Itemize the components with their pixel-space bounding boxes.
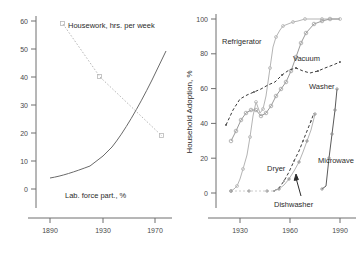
right-chart-svg: Household Adoption, % 100 80 60 40 20 0 bbox=[182, 0, 364, 255]
annotation-labor-force: Lab. force part., % bbox=[65, 191, 127, 200]
left-y-ticklabel: 60 bbox=[20, 18, 28, 25]
left-y-ticklabel: 20 bbox=[20, 130, 28, 137]
right-y-ticklabels: 100 80 60 40 20 0 bbox=[196, 16, 208, 197]
left-x-ticklabel: 1970 bbox=[147, 227, 163, 234]
right-y-ticks bbox=[211, 19, 216, 193]
series-markers-housework bbox=[61, 22, 164, 138]
left-y-ticklabel: 0 bbox=[24, 186, 28, 193]
annotation-housework: Housework, hrs. per week bbox=[68, 21, 155, 30]
right-x-ticks bbox=[240, 218, 340, 223]
annotation-refrigerator: Refrigerator bbox=[222, 37, 262, 46]
right-x-ticklabel: 1960 bbox=[282, 227, 298, 234]
left-x-ticklabels: 1890 1930 1970 bbox=[42, 227, 163, 234]
left-y-ticklabel: 30 bbox=[20, 102, 28, 109]
dishwasher-callout-arrow bbox=[294, 174, 301, 196]
right-y-ticklabel: 0 bbox=[204, 190, 208, 197]
right-x-ticklabel: 1990 bbox=[332, 227, 348, 234]
series-markers-washer bbox=[225, 61, 341, 126]
left-y-ticklabels: 60 50 40 30 20 10 0 bbox=[20, 18, 28, 193]
figure-container: 60 50 40 30 20 10 0 1890 1930 1970 bbox=[0, 0, 364, 255]
left-y-ticks bbox=[31, 21, 36, 189]
right-y-ticklabel: 40 bbox=[200, 120, 208, 127]
right-y-axis-title: Household Adoption, % bbox=[185, 70, 194, 153]
annotation-washer: Washer bbox=[309, 82, 335, 91]
right-y-ticklabel: 100 bbox=[196, 16, 208, 23]
left-y-ticklabel: 40 bbox=[20, 74, 28, 81]
chart-panel-right: Household Adoption, % 100 80 60 40 20 0 bbox=[182, 0, 364, 255]
series-line-microwave bbox=[322, 89, 337, 189]
annotation-vacuum: Vacuum bbox=[293, 54, 320, 63]
series-line-housework bbox=[63, 24, 162, 136]
right-x-ticklabel: 1930 bbox=[232, 227, 248, 234]
series-line-washer bbox=[226, 62, 340, 125]
left-chart-svg: 60 50 40 30 20 10 0 1890 1930 1970 bbox=[0, 0, 182, 255]
chart-panel-left: 60 50 40 30 20 10 0 1890 1930 1970 bbox=[0, 0, 182, 255]
left-x-ticks bbox=[50, 218, 155, 223]
right-y-ticklabel: 80 bbox=[200, 50, 208, 57]
left-x-ticklabel: 1930 bbox=[95, 227, 111, 234]
series-markers-dryer bbox=[273, 120, 312, 192]
left-y-ticklabel: 10 bbox=[20, 158, 28, 165]
series-line-labor-force bbox=[50, 51, 166, 178]
right-y-ticklabel: 20 bbox=[200, 155, 208, 162]
annotation-dishwasher: Dishwasher bbox=[274, 200, 314, 209]
right-x-ticklabels: 1930 1960 1990 bbox=[232, 227, 348, 234]
annotation-microwave: Microwave bbox=[318, 156, 354, 165]
annotation-dryer: Dryer bbox=[267, 164, 286, 173]
left-y-ticklabel: 50 bbox=[20, 46, 28, 53]
right-y-ticklabel: 60 bbox=[200, 85, 208, 92]
left-x-ticklabel: 1890 bbox=[42, 227, 58, 234]
